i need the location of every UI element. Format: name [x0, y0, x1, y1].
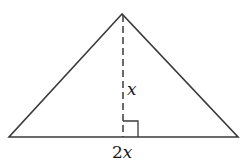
base-label-coefficient: 2: [112, 142, 123, 162]
height-label: x: [127, 79, 137, 99]
base-label: 2x: [112, 142, 133, 162]
triangle-diagram: x 2x: [0, 0, 250, 165]
right-angle-marker: [123, 121, 138, 137]
base-label-variable: x: [123, 142, 133, 162]
